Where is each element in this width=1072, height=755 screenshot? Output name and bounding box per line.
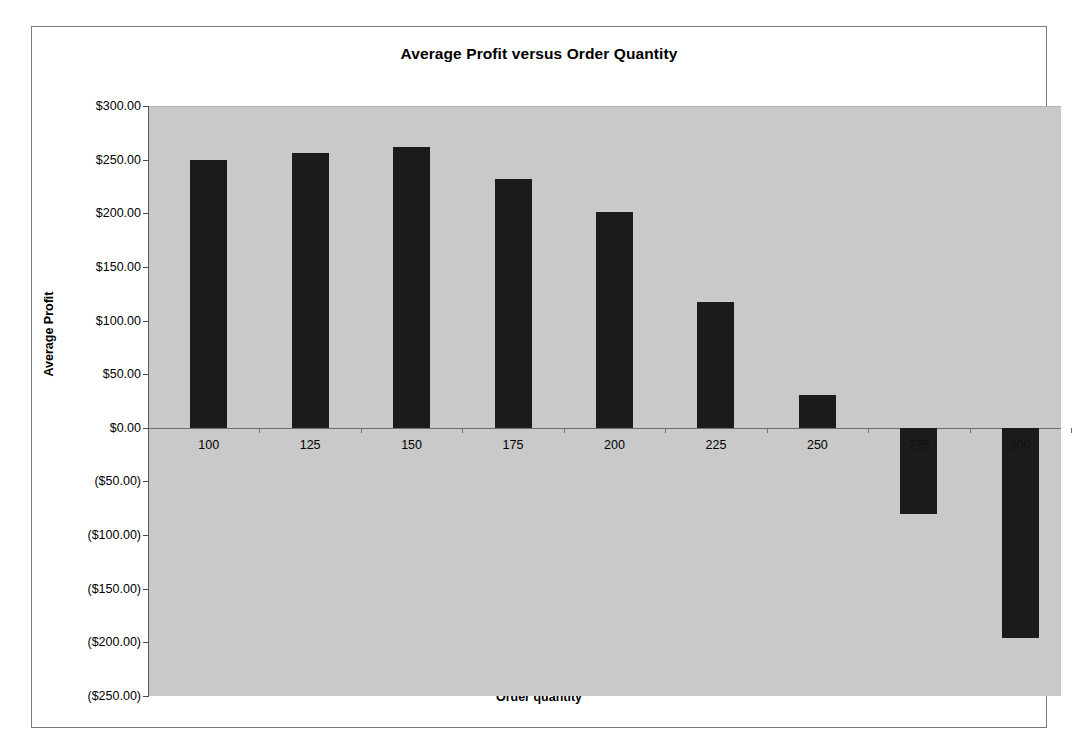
x-axis-tick-label: 175 (464, 439, 562, 452)
y-axis-tick-label: ($50.00) (25, 475, 141, 488)
x-axis-tick-mark (970, 428, 971, 433)
y-axis-tick-mark (143, 642, 149, 643)
y-axis-tick-label: $50.00 (25, 368, 141, 381)
y-axis-tick-label: $150.00 (25, 261, 141, 274)
x-axis-tick-label: 100 (160, 439, 258, 452)
x-axis-tick-label: 250 (768, 439, 866, 452)
y-axis-tick-mark (143, 160, 149, 161)
x-axis-tick-mark (259, 428, 260, 433)
bar (1002, 428, 1039, 638)
x-axis-tick-mark (361, 428, 362, 433)
y-axis-tick-mark (143, 267, 149, 268)
bar (799, 395, 836, 428)
bar (190, 160, 227, 428)
x-axis-tick-label: 225 (667, 439, 765, 452)
bar (495, 179, 532, 428)
y-axis-tick-mark (143, 535, 149, 536)
y-axis-tick-label: ($100.00) (25, 529, 141, 542)
y-axis-title: Average Profit (42, 254, 56, 414)
y-axis-tick-mark (143, 321, 149, 322)
y-axis-tick-mark (143, 213, 149, 214)
y-axis-tick-mark (143, 696, 149, 697)
y-axis-tick-label: ($250.00) (25, 690, 141, 703)
plot-area: $300.00$250.00$200.00$150.00$100.00$50.0… (148, 106, 1061, 696)
y-axis-tick-label: $300.00 (25, 100, 141, 113)
bar (697, 302, 734, 428)
y-axis-tick-label: ($200.00) (25, 636, 141, 649)
y-axis-tick-mark (143, 106, 149, 107)
y-axis-tick-label: ($150.00) (25, 582, 141, 595)
y-axis-tick-mark (143, 374, 149, 375)
x-axis-tick-label: 275 (870, 439, 968, 452)
x-axis-tick-label: 300 (971, 439, 1069, 452)
bar (596, 212, 633, 428)
chart-title: Average Profit versus Order Quantity (32, 45, 1046, 63)
x-axis-tick-mark (767, 428, 768, 433)
bar (292, 153, 329, 428)
x-axis-tick-label: 125 (261, 439, 359, 452)
x-axis-tick-mark (462, 428, 463, 433)
x-axis-tick-label: 200 (566, 439, 664, 452)
y-axis-tick-label: $0.00 (25, 422, 141, 435)
bar (393, 147, 430, 428)
y-axis-tick-label: $200.00 (25, 207, 141, 220)
y-axis-tick-mark (143, 589, 149, 590)
y-axis-tick-mark (143, 481, 149, 482)
y-axis-tick-mark (143, 428, 149, 429)
x-axis-tick-mark (564, 428, 565, 433)
chart-frame: Average Profit versus Order Quantity Ave… (31, 26, 1047, 728)
y-axis-tick-label: $100.00 (25, 314, 141, 327)
x-axis-tick-label: 150 (363, 439, 461, 452)
x-axis-tick-mark (665, 428, 666, 433)
x-axis-tick-mark (868, 428, 869, 433)
y-axis-tick-label: $250.00 (25, 153, 141, 166)
